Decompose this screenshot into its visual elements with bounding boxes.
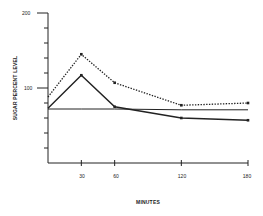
y-axis-title: SUGAR PERCENT LEVEL (12, 56, 18, 121)
series-layer (48, 53, 249, 122)
series-solid-marker (180, 117, 183, 120)
series-solid-marker (80, 74, 83, 77)
series-solid-marker (247, 119, 250, 122)
series-dotted-marker (180, 104, 183, 107)
y-axis-ticks (37, 13, 48, 148)
series-solid-marker (113, 105, 116, 108)
y-axis: 200 100 SUGAR PERCENT LEVEL (12, 10, 48, 163)
series-dotted-line (48, 54, 248, 105)
x-axis-title: MINUTES (136, 199, 160, 205)
x-tick-label-120: 120 (178, 173, 187, 179)
x-tick-label-180: 180 (243, 173, 252, 179)
x-tick-label-30: 30 (79, 173, 85, 179)
series-dotted-marker (113, 81, 116, 84)
y-tick-label-200: 200 (22, 10, 31, 16)
series-dotted-marker (80, 53, 83, 56)
series-dotted-marker (247, 102, 250, 105)
line-chart: 200 100 SUGAR PERCENT LEVEL 30 60 120 18… (0, 0, 263, 216)
series-solid-line (48, 75, 248, 120)
x-axis: 30 60 120 180 MINUTES (48, 160, 251, 205)
y-tick-label-100: 100 (24, 85, 33, 91)
series-baseline-line (48, 109, 248, 110)
x-tick-label-60: 60 (113, 173, 119, 179)
